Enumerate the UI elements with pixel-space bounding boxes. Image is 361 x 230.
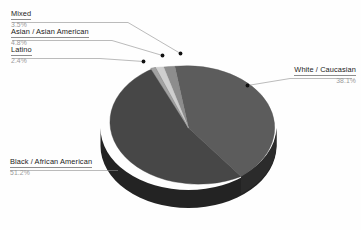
label-black-value: 51.2% [10, 168, 92, 178]
label-latino: Latino 2.4% [11, 45, 32, 65]
label-latino-value: 2.4% [11, 56, 32, 66]
marker-dot-mixed [179, 52, 183, 56]
marker-dot-latino [142, 60, 146, 64]
label-white-caucasian: White / Caucasian 38.1% [294, 65, 356, 85]
label-asian-name: Asian / Asian American [11, 27, 89, 38]
pie-chart-figure: Mixed 3.5% Asian / Asian American 4.8% L… [0, 0, 361, 230]
marker-dot-white [246, 84, 250, 88]
label-latino-name: Latino [11, 45, 32, 56]
label-black-name: Black / African American [10, 157, 92, 168]
label-mixed-name: Mixed [11, 9, 31, 20]
label-white-value: 38.1% [294, 76, 356, 86]
label-mixed: Mixed 3.5% [11, 9, 31, 29]
label-black-african-american: Black / African American 51.2% [10, 157, 92, 177]
pie-top-face [110, 66, 275, 184]
marker-dot-asian [161, 54, 165, 58]
label-asian-asian-american: Asian / Asian American 4.8% [11, 27, 89, 47]
label-white-name: White / Caucasian [294, 65, 356, 76]
